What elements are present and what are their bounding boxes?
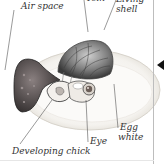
label-egg-white-1: Egg [120, 122, 138, 132]
label-egg-white-2: white [118, 132, 143, 142]
eye-pupil [86, 86, 92, 92]
arrow-fragment-icon [157, 60, 164, 70]
label-eye: Eye [90, 136, 107, 146]
yolk-sac [58, 40, 113, 79]
page-bottom-edge [0, 160, 154, 161]
label-yolk: Yolk [86, 0, 105, 3]
label-developing-chick: Developing chick [12, 146, 91, 156]
page-edge [153, 0, 154, 164]
label-shell: shell [116, 4, 138, 14]
label-air-space: Air space [21, 1, 64, 11]
egg-diagram: Air space Yolk Living shell Egg white Ey… [0, 0, 164, 164]
